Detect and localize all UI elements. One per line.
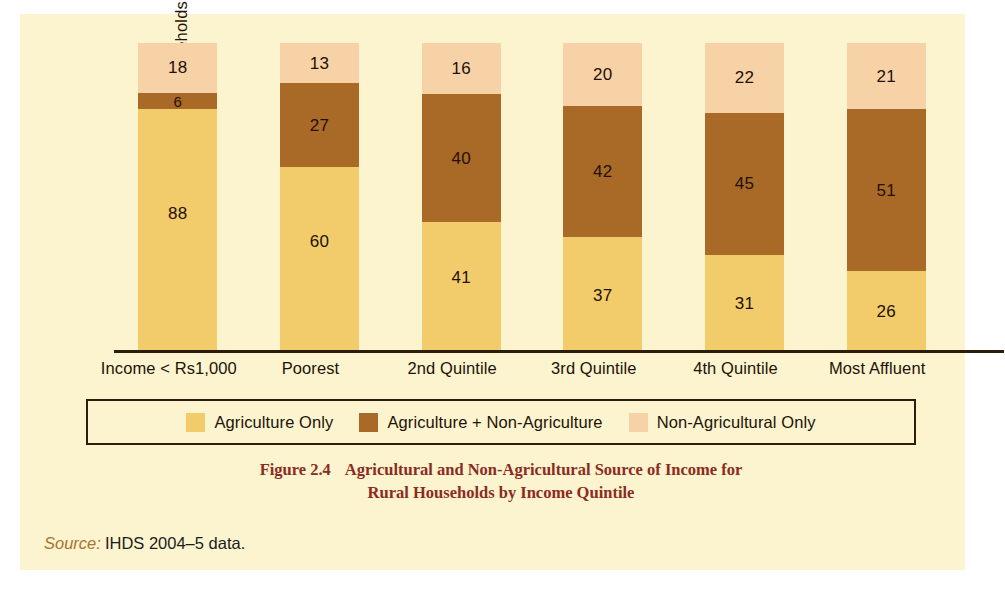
stacked-bar: 164041	[422, 43, 501, 353]
bar-segment: 18	[138, 43, 217, 93]
legend-item[interactable]: Non-Agricultural Only	[629, 413, 816, 432]
bar-segment: 27	[280, 83, 359, 167]
stacked-bar: 224531	[705, 43, 784, 353]
bar-segment-value: 51	[876, 182, 896, 199]
stacked-bar: 215126	[847, 43, 926, 353]
bar-segment: 88	[138, 109, 217, 353]
legend-label: Non-Agricultural Only	[657, 413, 816, 432]
bar-segment-value: 60	[310, 233, 330, 250]
bar-segment-value: 45	[735, 175, 755, 192]
figure-caption: Figure 2.4Agricultural and Non-Agricultu…	[106, 458, 896, 505]
x-axis-labels: Income < Rs1,000Poorest2nd Quintile3rd Q…	[98, 359, 948, 385]
bar-segment: 51	[847, 109, 926, 270]
bar-segment: 45	[705, 113, 784, 255]
bar-segment-value: 40	[451, 150, 471, 167]
bar-segment-value: 31	[735, 295, 755, 312]
caption-number: Figure 2.4	[260, 460, 331, 479]
bar-segment: 42	[563, 106, 642, 238]
x-axis-tick-label: Income < Rs1,000	[98, 359, 240, 378]
caption-line-1: Figure 2.4Agricultural and Non-Agricultu…	[106, 458, 896, 481]
bar-segment-value: 18	[168, 59, 188, 76]
legend-item[interactable]: Agriculture + Non-Agriculture	[359, 413, 602, 432]
bar-segment-value: 20	[593, 66, 613, 83]
bar-segment: 16	[422, 43, 501, 94]
caption-text-2: Rural Households by Income Quintile	[106, 481, 896, 504]
bar-segment-value: 27	[310, 117, 330, 134]
bar-segment: 6	[138, 93, 217, 110]
bar-segment: 22	[705, 43, 784, 113]
bar-segment-value: 21	[876, 68, 896, 85]
bar-segment-value: 16	[451, 60, 471, 77]
legend-item[interactable]: Agriculture Only	[186, 413, 333, 432]
x-axis-tick-label: Poorest	[240, 359, 382, 378]
legend-label: Agriculture Only	[214, 413, 333, 432]
bar-segment: 26	[847, 271, 926, 353]
bar-segment-value: 6	[174, 94, 183, 109]
bar-segment-value: 42	[593, 163, 613, 180]
legend-swatch-icon	[629, 413, 648, 432]
stacked-bar: 204237	[563, 43, 642, 353]
chart-legend: Agriculture OnlyAgriculture + Non-Agricu…	[86, 399, 916, 445]
bar-segment: 21	[847, 43, 926, 109]
legend-swatch-icon	[186, 413, 205, 432]
bar-segment: 41	[422, 222, 501, 353]
bar-segment-value: 22	[735, 69, 755, 86]
x-axis-tick-label: 4th Quintile	[665, 359, 807, 378]
source-value: IHDS 2004–5 data.	[105, 534, 245, 552]
source-label: Source:	[44, 534, 101, 552]
stacked-bar: 18688	[138, 43, 217, 353]
bar-segment-value: 13	[310, 55, 330, 72]
bar-segment-value: 37	[593, 287, 613, 304]
x-axis-line	[114, 350, 1004, 353]
bar-segment-value: 88	[168, 205, 188, 222]
bar-segment-value: 26	[876, 303, 896, 320]
stacked-bar: 132760	[280, 43, 359, 353]
bar-segment: 40	[422, 94, 501, 222]
source-line: Source:IHDS 2004–5 data.	[44, 534, 245, 553]
x-axis-tick-label: 3rd Quintile	[523, 359, 665, 378]
caption-text-1: Agricultural and Non-Agricultural Source…	[345, 460, 743, 479]
bar-segment: 31	[705, 255, 784, 353]
chart-plot-area: Per cent Households 18688132760164041204…	[98, 28, 948, 353]
x-axis-tick-label: Most Affluent	[806, 359, 948, 378]
bar-segment: 13	[280, 43, 359, 83]
x-axis-tick-label: 2nd Quintile	[381, 359, 523, 378]
legend-label: Agriculture + Non-Agriculture	[387, 413, 602, 432]
bar-segment-value: 41	[451, 269, 471, 286]
legend-swatch-icon	[359, 413, 378, 432]
figure-panel: Per cent Households 18688132760164041204…	[20, 14, 965, 570]
bar-segment: 60	[280, 167, 359, 353]
bar-segment: 20	[563, 43, 642, 106]
bar-segment: 37	[563, 237, 642, 353]
